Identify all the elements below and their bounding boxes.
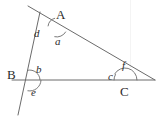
angle-label-c: c <box>108 71 113 82</box>
angle-label-f: f <box>122 60 125 71</box>
geometry-diagram: A B C d a b e c f <box>0 0 162 124</box>
scan-streak-artifact <box>130 0 131 68</box>
vertex-label-a: A <box>56 8 65 21</box>
figure-canvas <box>0 0 162 124</box>
angle-arc-f <box>115 68 137 80</box>
lines-group <box>12 6 155 115</box>
angle-label-d: d <box>34 28 40 39</box>
angle-label-e: e <box>31 87 36 98</box>
angle-arc-d <box>48 18 55 26</box>
vertex-label-b: B <box>7 68 16 81</box>
angle-label-a: a <box>55 36 61 47</box>
angle-label-b: b <box>36 64 42 75</box>
line-ac-extended <box>28 6 155 80</box>
angle-arc-c <box>114 75 115 81</box>
vertex-label-c: C <box>120 85 129 98</box>
